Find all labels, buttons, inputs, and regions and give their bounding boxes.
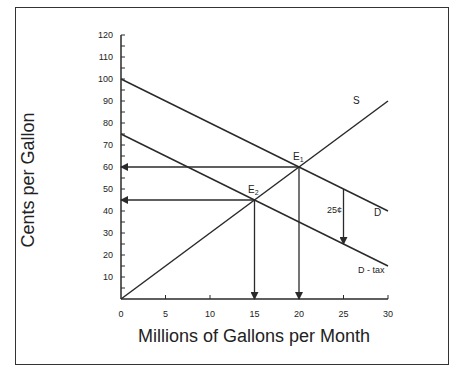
x-tick-label: 15 — [249, 309, 259, 319]
y-tick-label: 20 — [103, 250, 113, 260]
demand-label: D — [374, 207, 381, 218]
x-tick-label: 5 — [163, 309, 168, 319]
x-tick-label: 0 — [118, 309, 123, 319]
x-tick-label: 20 — [294, 309, 304, 319]
x-tick-label: 30 — [383, 309, 393, 319]
demand-tax-label: D - tax — [358, 265, 385, 275]
y-tick-label: 80 — [103, 118, 113, 128]
x-tick-label: 25 — [338, 309, 348, 319]
y-tick-label: 40 — [103, 206, 113, 216]
curve-labels: S D D - tax 25¢ E1 E2 — [248, 95, 385, 275]
equilibrium-e2-label: E2 — [248, 184, 259, 196]
y-tick-label: 120 — [98, 30, 113, 40]
y-tick-label: 60 — [103, 162, 113, 172]
y-tick-label: 70 — [103, 140, 113, 150]
y-tick-label: 10 — [103, 272, 113, 282]
y-tick-label: 30 — [103, 228, 113, 238]
x-tick-label: 10 — [205, 309, 215, 319]
arrows — [121, 167, 344, 299]
y-tick-label: 100 — [98, 74, 113, 84]
equilibrium-e1-label: E1 — [293, 151, 304, 163]
y-tick-label: 90 — [103, 96, 113, 106]
tax-amount-label: 25¢ — [327, 205, 342, 215]
axes: 102030405060708090100110120051015202530 — [98, 30, 393, 319]
chart-plot: 102030405060708090100110120051015202530 … — [0, 0, 466, 379]
supply-label: S — [353, 95, 360, 106]
y-tick-label: 110 — [99, 52, 113, 62]
y-tick-label: 50 — [103, 184, 113, 194]
